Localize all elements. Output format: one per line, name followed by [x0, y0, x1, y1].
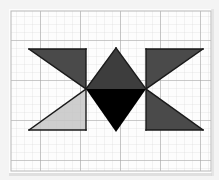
- geometric-figure-svg: [0, 0, 219, 180]
- figure-canvas: [0, 0, 219, 180]
